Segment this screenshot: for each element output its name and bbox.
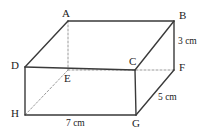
cuboid-svg [0, 0, 202, 133]
vertex-label-g: G [132, 118, 140, 129]
dimension-width: 7 cm [66, 118, 85, 128]
edge-BC [135, 21, 174, 70]
edge-EH [25, 70, 68, 115]
vertex-label-d: D [11, 60, 19, 71]
vertex-label-e: E [64, 73, 71, 84]
vertex-label-c: C [129, 56, 136, 67]
edge-CG [135, 70, 136, 115]
edge-AD [25, 21, 68, 67]
vertex-label-f: F [179, 62, 185, 73]
dimension-height: 3 cm [178, 36, 197, 46]
vertex-label-a: A [62, 8, 70, 19]
dimension-depth: 5 cm [158, 92, 177, 102]
vertex-label-h: H [11, 108, 19, 119]
cuboid-figure: ABCDEFGH 3 cm5 cm7 cm [0, 0, 202, 133]
vertex-label-b: B [179, 10, 186, 21]
solid-edges-group [25, 21, 174, 115]
